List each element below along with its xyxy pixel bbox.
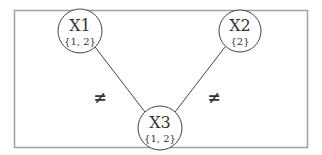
node-x1: X1 {1, 2} <box>58 9 102 53</box>
node-x3-name: X3 <box>149 113 171 132</box>
node-x2-name: X2 <box>229 16 251 35</box>
node-x3-domain: {1, 2} <box>144 133 176 144</box>
constraint-graph: ≠ ≠ X1 {1, 2} X2 {2} X3 {1, 2} <box>0 0 322 155</box>
node-x2: X2 {2} <box>219 10 261 52</box>
edge-label-x1-x3: ≠ <box>93 88 106 107</box>
edge-label-x2-x3: ≠ <box>207 88 220 107</box>
node-x2-domain: {2} <box>230 36 249 47</box>
node-x1-domain: {1, 2} <box>64 36 96 47</box>
node-x3: X3 {1, 2} <box>138 106 182 150</box>
node-x1-name: X1 <box>69 16 91 35</box>
